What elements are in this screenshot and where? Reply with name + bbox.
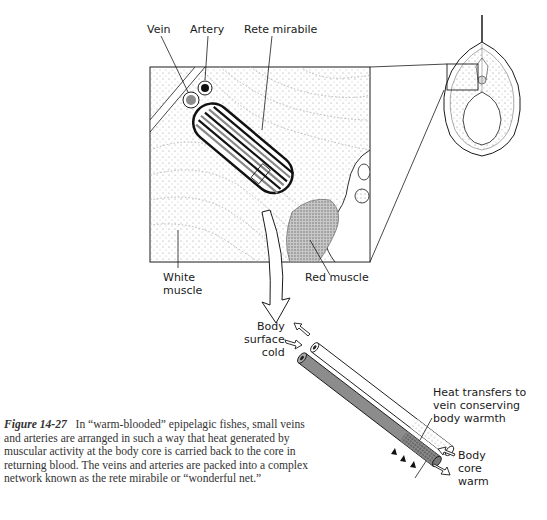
flow-out-arrow-icon	[294, 323, 310, 336]
label-body-surface-cold: Body surface cold	[244, 320, 285, 359]
label-body-core-warm: Body core warm	[458, 449, 489, 488]
label-heat-transfers: Heat transfers to vein conserving body w…	[433, 386, 526, 425]
flow-out-warm-arrow-icon	[432, 464, 450, 475]
flow-in-arrow-icon	[285, 340, 302, 349]
label-white-muscle: White muscle	[163, 271, 202, 297]
label-artery: Artery	[190, 23, 224, 36]
fish-cross-section	[444, 15, 521, 156]
inset-connector-lines	[370, 64, 447, 262]
label-red-muscle: Red muscle	[305, 271, 369, 284]
figure-caption: Figure 14-27 In “warm-blooded” epipelagi…	[4, 418, 324, 486]
figure-number: Figure 14-27	[4, 418, 67, 431]
muscle-section-box	[150, 67, 370, 262]
label-vein: Vein	[147, 23, 170, 36]
label-rete-mirabile: Rete mirabile	[244, 23, 317, 36]
heat-transfer-arrows	[391, 448, 416, 468]
